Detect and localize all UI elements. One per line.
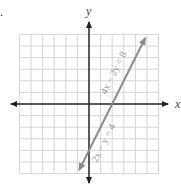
y-axis-label: y bbox=[85, 4, 92, 18]
x-axis-label: x bbox=[174, 97, 181, 111]
coordinate-plane: x y 4x − 2y = 8 2x − y = 4 bbox=[0, 0, 181, 184]
